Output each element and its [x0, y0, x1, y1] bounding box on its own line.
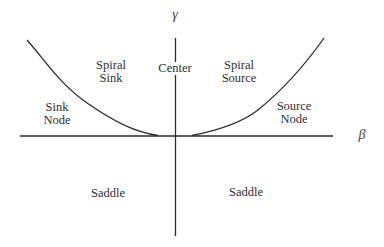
region-label-line: Saddle: [91, 187, 125, 200]
region-label-line: Source: [222, 72, 257, 85]
region-label-line: Center: [158, 62, 191, 75]
gamma-axis-label: γ: [172, 7, 178, 23]
region-spiral-sink: Spiral Sink: [96, 59, 126, 85]
region-saddle-left: Saddle: [91, 187, 125, 200]
region-center: Center: [157, 62, 192, 75]
region-saddle-right: Saddle: [229, 186, 263, 199]
region-label-line: Node: [43, 114, 70, 127]
region-label-line: Sink: [96, 72, 126, 85]
region-sink-node: Sink Node: [43, 101, 70, 127]
region-label-line: Node: [277, 113, 312, 126]
region-label-line: Saddle: [229, 186, 263, 199]
region-spiral-source: Spiral Source: [222, 59, 257, 85]
region-source-node: Source Node: [277, 100, 312, 126]
beta-axis-label: β: [359, 127, 366, 143]
